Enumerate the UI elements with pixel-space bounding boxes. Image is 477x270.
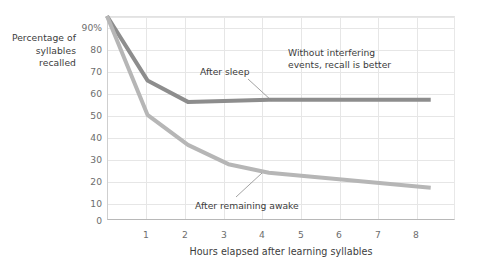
annotation-after-sleep: After sleep xyxy=(200,66,249,78)
x-tick-8: 8 xyxy=(404,229,428,240)
x-axis-title: Hours elapsed after learning syllables xyxy=(107,246,455,257)
x-tick-2: 2 xyxy=(173,229,197,240)
x-tick-1: 1 xyxy=(134,229,158,240)
chart-figure: Percentage of syllables recalled 90% 8 xyxy=(0,0,477,270)
x-tick-6: 6 xyxy=(327,229,351,240)
annotation-without-interfering-events: Without interfering events, recall is be… xyxy=(288,47,398,70)
x-tick-3: 3 xyxy=(212,229,236,240)
x-tick-7: 7 xyxy=(366,229,390,240)
x-tick-5: 5 xyxy=(289,229,313,240)
annotation-after-remaining-awake: After remaining awake xyxy=(195,200,299,212)
x-tick-4: 4 xyxy=(250,229,274,240)
x-axis-tick-labels: 1 2 3 4 5 6 7 8 xyxy=(0,0,477,270)
